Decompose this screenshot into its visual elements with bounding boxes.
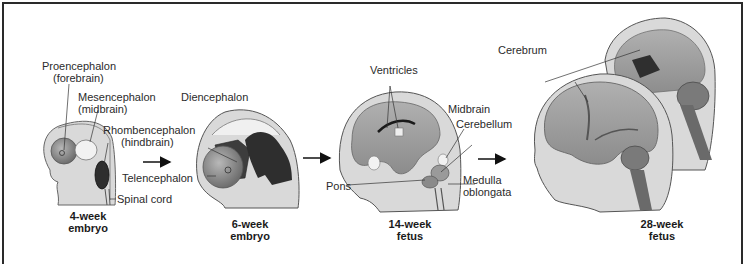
label-cerebrum: Cerebrum [498,44,547,56]
label-medulla: Medulla [463,174,502,186]
label-proencephalon: Proencephalon [42,60,116,72]
label-diencephalon: Diencephalon [181,91,248,103]
caption-line: 14-week [380,218,440,230]
caption-6-week: 6-week embryo [225,218,275,242]
label-medulla-sub: oblongata [463,186,511,198]
embryo-6-week [197,110,300,208]
label-cerebellum: Cerebellum [456,118,512,130]
caption-28-week: 28-week fetus [632,218,692,242]
label-ventricles: Ventricles [370,64,418,76]
caption-14-week: 14-week fetus [380,218,440,242]
label-proencephalon-sub: (forebrain) [53,72,104,84]
label-mesencephalon-sub: (midbrain) [78,103,128,115]
label-midbrain: Midbrain [448,103,490,115]
caption-line: embryo [63,222,113,234]
caption-line: fetus [380,230,440,242]
caption-line: 4-week [63,210,113,222]
caption-line: fetus [632,230,692,242]
label-mesencephalon: Mesencephalon [78,91,156,103]
label-rhombencephalon-sub: (hindbrain) [121,136,174,148]
label-rhombencephalon: Rhombencephalon [103,124,195,136]
label-spinal-cord: Spinal cord [117,193,172,205]
fetus-28-week [534,18,715,212]
caption-4-week: 4-week embryo [63,210,113,234]
label-pons: Pons [326,180,351,192]
caption-line: embryo [225,230,275,242]
caption-line: 6-week [225,218,275,230]
caption-line: 28-week [632,218,692,230]
label-telencephalon: Telencephalon [122,172,193,184]
